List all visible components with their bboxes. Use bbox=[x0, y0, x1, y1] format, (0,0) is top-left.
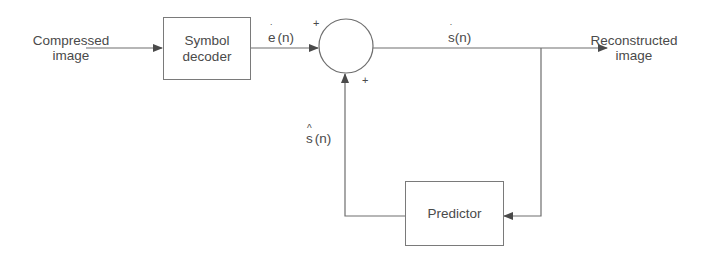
error-signal-label: ˙e(n) bbox=[268, 30, 294, 45]
input-label-line2: image bbox=[24, 48, 118, 63]
predictor-block: Predictor bbox=[405, 181, 504, 246]
summing-junction bbox=[319, 19, 373, 73]
symbol-decoder-block: Symbol decoder bbox=[163, 17, 251, 80]
output-label-line2: image bbox=[578, 48, 690, 63]
prediction-signal-label: ^s(n) bbox=[306, 131, 331, 146]
symbol-decoder-line2: decoder bbox=[183, 49, 232, 65]
output-label: Reconstructed image bbox=[578, 33, 690, 63]
reconstructed-suffix: (n) bbox=[455, 30, 472, 45]
output-label-line1: Reconstructed bbox=[578, 33, 690, 48]
prediction-suffix: (n) bbox=[315, 131, 332, 146]
predictive-decoder-diagram: Compressed image Symbol decoder ˙e(n) + … bbox=[0, 0, 703, 263]
error-suffix: (n) bbox=[278, 30, 295, 45]
predictor-label: Predictor bbox=[427, 206, 481, 222]
prediction-feedback bbox=[345, 74, 405, 216]
prediction-accent: ^ bbox=[306, 124, 313, 134]
reconstructed-accent: ˙ bbox=[448, 24, 455, 34]
error-accent: ˙ bbox=[268, 24, 276, 34]
input-label: Compressed image bbox=[24, 33, 118, 63]
symbol-decoder-line1: Symbol bbox=[183, 33, 232, 49]
plus-sign-top: + bbox=[313, 18, 319, 29]
input-label-line1: Compressed bbox=[24, 33, 118, 48]
reconstructed-signal-label: ˙s(n) bbox=[448, 30, 471, 45]
feedback-branch bbox=[504, 48, 541, 216]
plus-sign-bottom: + bbox=[362, 75, 368, 86]
